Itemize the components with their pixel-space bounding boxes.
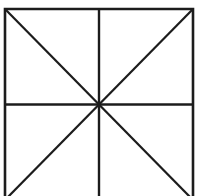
square-diagonals-diagram xyxy=(0,0,198,196)
figure-canvas xyxy=(0,0,198,196)
